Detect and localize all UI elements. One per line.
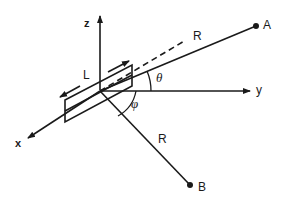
distance-B-label: R xyxy=(158,134,167,145)
dashed-R-line xyxy=(100,40,186,91)
plate-midline xyxy=(65,75,132,111)
point-B xyxy=(187,182,193,188)
antenna-geometry-diagram: z y x A B L R R θ φ xyxy=(0,0,283,202)
y-axis-label: y xyxy=(256,85,262,96)
line-to-A xyxy=(100,26,256,91)
x-axis-label: x xyxy=(15,138,21,149)
theta-label: θ xyxy=(156,72,162,83)
length-label: L xyxy=(83,70,90,81)
distance-A-label: R xyxy=(193,31,202,42)
length-arrow-lower xyxy=(60,86,80,97)
line-to-B xyxy=(100,91,190,185)
length-arrow-upper xyxy=(108,61,129,72)
phi-label: φ xyxy=(131,98,138,109)
point-A-label: A xyxy=(263,20,271,31)
point-A xyxy=(253,23,259,29)
diagram-lines xyxy=(0,0,283,202)
point-B-label: B xyxy=(198,182,206,193)
z-axis-label: z xyxy=(84,18,90,29)
theta-arc xyxy=(147,71,151,91)
